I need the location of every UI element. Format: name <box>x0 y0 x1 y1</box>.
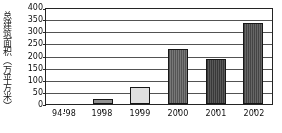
bar-slot <box>197 9 235 104</box>
bar-slot <box>159 9 197 104</box>
y-tick-label: 250 <box>14 40 43 48</box>
y-tick-label: 100 <box>14 77 43 85</box>
y-tick-label: 300 <box>14 28 43 36</box>
x-tick-mark <box>254 109 255 112</box>
bar-slot <box>121 9 159 104</box>
bar <box>243 23 263 104</box>
y-tick-label: 0 <box>14 101 43 109</box>
plot-area <box>45 8 273 105</box>
y-tick-mark <box>43 105 46 106</box>
x-tick-mark <box>64 109 65 112</box>
y-tick-label: 200 <box>14 53 43 61</box>
bar-slot <box>234 9 272 104</box>
y-axis-tick-labels: 050100150200250300350400 <box>14 8 43 105</box>
bar <box>168 49 188 104</box>
bar-series <box>46 9 272 104</box>
x-tick-mark <box>102 109 103 112</box>
bar <box>206 59 226 104</box>
bar <box>93 99 113 104</box>
bar-slot <box>46 9 84 104</box>
chart-screenshot: 总建筑面积（万平方米） 050100150200250300350400 94-… <box>0 0 282 133</box>
y-tick-label: 50 <box>14 89 43 97</box>
bar-slot <box>84 9 122 104</box>
x-tick-mark <box>140 109 141 112</box>
y-tick-label: 150 <box>14 65 43 73</box>
y-tick-label: 400 <box>14 4 43 12</box>
x-tick-mark <box>178 109 179 112</box>
y-tick-label: 350 <box>14 16 43 24</box>
x-axis-tick-labels: 94-9819981999200020012002 <box>45 109 273 125</box>
x-tick-mark <box>216 109 217 112</box>
bar <box>130 87 150 104</box>
y-axis-title: 总建筑面积（万平方米） <box>1 4 14 116</box>
